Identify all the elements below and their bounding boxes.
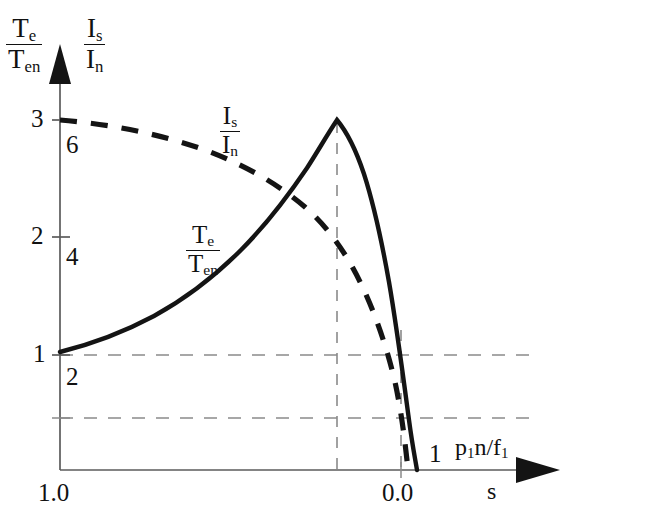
curve-label-torque-numerator: Te (186, 222, 220, 250)
y-axis-label-torque: Te Ten (6, 14, 42, 75)
x-axis-marker-1: 1 (429, 440, 442, 468)
x-tick-label-0-0: 0.0 (382, 479, 413, 507)
y-tick-inner-label-6: 6 (66, 131, 79, 159)
chart-svg (0, 0, 661, 524)
y-axis-label-torque-numerator: Te (6, 14, 42, 44)
chart-canvas: Te Ten Is In 3 2 1 6 4 2 1.0 0.0 1 p1n/f… (0, 0, 661, 524)
x-axis-arrowhead (516, 457, 560, 483)
curve-label-current: Is In (220, 103, 240, 159)
curve-label-torque: Te Ten (186, 222, 220, 278)
x-axis-label-p1n-f1: p1n/f1 (455, 434, 509, 462)
y-tick-label-3: 3 (31, 105, 44, 133)
curve-label-current-numerator: Is (220, 103, 240, 131)
y-tick-label-1: 1 (33, 340, 46, 368)
y-axis-label-current-denominator: In (84, 44, 105, 75)
y-tick-inner-label-2: 2 (66, 363, 79, 391)
y-axis-arrowhead (49, 44, 71, 84)
y-axis-label-current: Is In (84, 14, 105, 75)
y-axis-label-torque-denominator: Ten (6, 44, 42, 75)
y-tick-inner-label-4: 4 (66, 243, 79, 271)
x-axis-label-slip: s (487, 478, 496, 505)
x-tick-label-1-0: 1.0 (38, 479, 69, 507)
y-tick-label-2: 2 (31, 222, 44, 250)
curve-label-torque-denominator: Ten (186, 250, 220, 279)
y-axis-label-current-numerator: Is (84, 14, 105, 44)
curve-label-current-denominator: In (220, 131, 240, 160)
